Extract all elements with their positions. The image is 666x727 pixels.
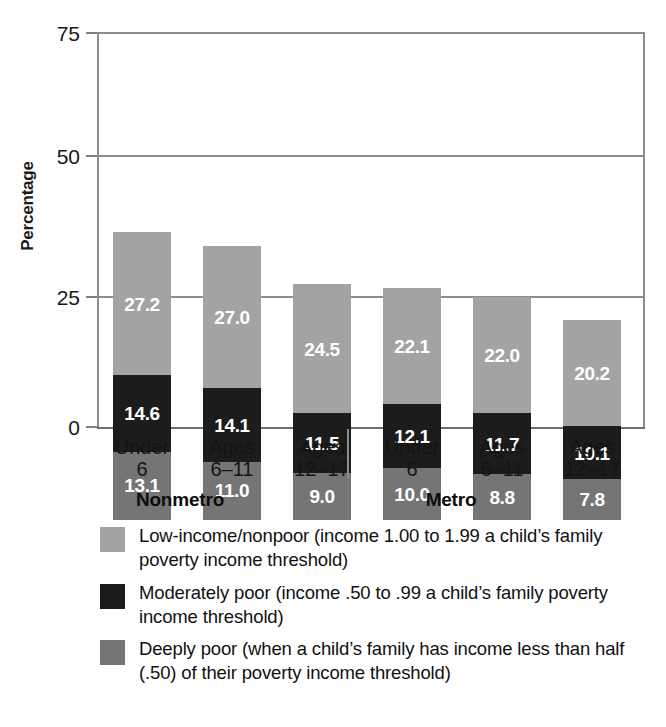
y-tick-label-50: 50: [36, 146, 80, 167]
y-tick-mark-75: [86, 32, 97, 34]
y-tick-mark-50: [86, 155, 97, 157]
x-tick-label-metro-ages12to17: Ages 12–17: [540, 436, 644, 481]
cat-line-1: Under: [90, 436, 194, 458]
bar-nonmetro-ages12to17[interactable]: 24.5 11.5 9.0: [293, 284, 351, 520]
legend-swatch-icon: [100, 584, 125, 609]
legend-item-low-income[interactable]: Low-income/nonpoor (income 1.00 to 1.99 …: [100, 524, 640, 572]
y-tick-label-25: 25: [36, 287, 80, 308]
group-label-metro: Metro: [351, 489, 551, 511]
segment-value-low: 27.0: [203, 308, 261, 327]
segment-low-income[interactable]: 24.5: [293, 284, 351, 413]
bar-metro-ages12to17[interactable]: 20.2 10.1 7.8: [563, 320, 621, 520]
legend-item-label: Deeply poor (when a child’s family has i…: [139, 637, 629, 685]
cat-line-1: Ages: [180, 436, 284, 458]
cat-line-2: 12–17: [540, 458, 644, 480]
segment-value-low: 22.0: [473, 346, 531, 365]
x-tick-label-metro-ages6to11: Ages 6–11: [450, 436, 554, 481]
segment-deeply-poor[interactable]: 7.8: [563, 479, 621, 520]
plot-right-border: [643, 32, 645, 428]
segment-low-income[interactable]: 22.0: [473, 297, 531, 413]
bar-metro-under6[interactable]: 22.1 12.1 10.0: [383, 288, 441, 520]
segment-value-low: 24.5: [293, 340, 351, 359]
legend-item-label: Moderately poor (income .50 to .99 a chi…: [139, 581, 629, 629]
cat-line-1: Ages: [450, 436, 554, 458]
x-tick-label-nonmetro-ages6to11: Ages 6–11: [180, 436, 284, 481]
cat-line-2: 6: [90, 458, 194, 480]
y-tick-label-75: 75: [36, 23, 80, 44]
legend-item-deeply-poor[interactable]: Deeply poor (when a child’s family has i…: [100, 637, 640, 685]
segment-value-low: 20.2: [563, 364, 621, 383]
y-tick-label-0: 0: [36, 417, 80, 438]
legend-item-moderately-poor[interactable]: Moderately poor (income .50 to .99 a chi…: [100, 581, 640, 629]
y-axis-title: Percentage: [18, 126, 38, 286]
group-divider: [347, 429, 349, 479]
segment-low-income[interactable]: 27.2: [113, 232, 171, 375]
cat-line-2: 6: [360, 458, 464, 480]
y-tick-mark-25: [86, 296, 97, 298]
x-tick-label-nonmetro-ages12to17: Ages 12–17: [270, 436, 374, 481]
legend-item-label: Low-income/nonpoor (income 1.00 to 1.99 …: [139, 524, 629, 572]
plot-area: Percentage 75 50 25 0 27.2 14.6 13.: [0, 0, 666, 520]
segment-low-income[interactable]: 27.0: [203, 246, 261, 388]
gridline-50: [97, 155, 645, 157]
segment-value-deep: 7.8: [563, 490, 621, 509]
y-axis-line: [97, 32, 99, 428]
legend-swatch-icon: [100, 527, 125, 552]
legend: Low-income/nonpoor (income 1.00 to 1.99 …: [100, 524, 640, 694]
segment-value-deep: 9.0: [293, 487, 351, 506]
gridline-75: [97, 32, 645, 34]
x-tick-label-metro-under6: Under 6: [360, 436, 464, 481]
segment-value-moderate: 14.6: [113, 404, 171, 423]
cat-line-1: Ages: [270, 436, 374, 458]
gridline-25: [97, 296, 645, 298]
figure-root: Percentage 75 50 25 0 27.2 14.6 13.: [0, 0, 666, 727]
legend-swatch-icon: [100, 640, 125, 665]
segment-value-moderate: 14.1: [203, 416, 261, 435]
x-tick-label-nonmetro-under6: Under 6: [90, 436, 194, 481]
segment-low-income[interactable]: 22.1: [383, 288, 441, 404]
cat-line-2: 6–11: [180, 458, 284, 480]
y-tick-mark-0: [86, 426, 97, 428]
cat-line-2: 12–17: [270, 458, 374, 480]
segment-value-low: 27.2: [113, 295, 171, 314]
cat-line-2: 6–11: [450, 458, 554, 480]
cat-line-1: Under: [360, 436, 464, 458]
cat-line-1: Ages: [540, 436, 644, 458]
segment-value-low: 22.1: [383, 337, 441, 356]
bar-metro-ages6to11[interactable]: 22.0 11.7 8.8: [473, 297, 531, 520]
segment-low-income[interactable]: 20.2: [563, 320, 621, 426]
group-label-nonmetro: Nonmetro: [80, 489, 280, 511]
